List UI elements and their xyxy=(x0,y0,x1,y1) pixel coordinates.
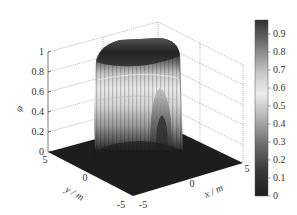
surface-plot: 1 0.8 0.6 0.4 0.2 0 φ 5 0 -5 y / m -5 0 … xyxy=(0,0,297,215)
svg-text:-5: -5 xyxy=(139,199,147,210)
colorbar: 0 0.1 0.2 0.3 0.4 0.5 0.6 0.7 0.8 0.9 xyxy=(255,20,286,201)
y-axis-label: y / m xyxy=(63,183,86,203)
svg-text:5: 5 xyxy=(245,163,250,174)
svg-text:5: 5 xyxy=(43,154,48,165)
x-axis-label: x / m xyxy=(201,182,224,201)
svg-text:0: 0 xyxy=(83,172,88,183)
svg-text:0.7: 0.7 xyxy=(273,64,286,75)
surface-plateau xyxy=(92,38,186,158)
svg-text:0: 0 xyxy=(273,190,278,201)
svg-text:0.5: 0.5 xyxy=(273,100,286,111)
svg-text:0.1: 0.1 xyxy=(273,172,286,183)
svg-text:0.8: 0.8 xyxy=(32,66,45,77)
svg-text:1: 1 xyxy=(39,46,44,57)
z-axis-ticks xyxy=(48,51,51,152)
svg-text:0.2: 0.2 xyxy=(273,154,286,165)
svg-text:0.6: 0.6 xyxy=(273,82,286,93)
z-axis-label: φ xyxy=(13,103,26,114)
svg-text:0.9: 0.9 xyxy=(273,28,286,39)
svg-text:0.3: 0.3 xyxy=(273,136,286,147)
svg-text:0: 0 xyxy=(190,178,195,189)
colorbar-tick-labels: 0 0.1 0.2 0.3 0.4 0.5 0.6 0.7 0.8 0.9 xyxy=(273,28,286,201)
svg-text:-5: -5 xyxy=(117,199,125,210)
svg-text:0.4: 0.4 xyxy=(32,106,45,117)
svg-text:0.2: 0.2 xyxy=(32,126,45,137)
svg-text:0.4: 0.4 xyxy=(273,118,286,129)
svg-text:0.8: 0.8 xyxy=(273,46,286,57)
svg-text:0.6: 0.6 xyxy=(32,86,45,97)
z-tick-labels: 1 0.8 0.6 0.4 0.2 0 xyxy=(32,46,45,157)
